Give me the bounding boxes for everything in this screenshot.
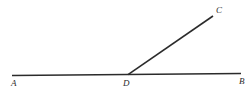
ray-segment-dc <box>128 16 213 75</box>
line-segment-ab <box>12 74 241 76</box>
geometry-figure: A D B C <box>0 0 252 98</box>
point-label-a: A <box>11 79 17 88</box>
point-label-d: D <box>123 79 130 88</box>
point-label-b: B <box>239 77 245 86</box>
point-label-c: C <box>216 6 222 15</box>
